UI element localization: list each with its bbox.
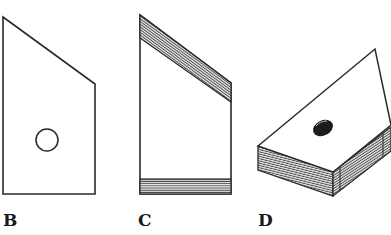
panel-c (140, 15, 231, 194)
panel-c-bottom-block (140, 179, 231, 194)
panel-d (258, 49, 391, 196)
diagram-canvas (0, 0, 391, 235)
panel-b-label: B (3, 210, 17, 230)
panel-d-label: D (258, 210, 273, 230)
panel-b (3, 17, 95, 194)
panel-b-outline (3, 17, 95, 194)
panel-c-label: C (138, 210, 152, 230)
